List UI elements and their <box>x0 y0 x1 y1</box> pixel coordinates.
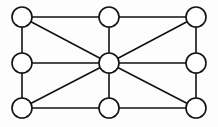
graph-node-top-center <box>99 7 119 27</box>
graph-node-bottom-center <box>99 98 119 118</box>
graph-edge-center-to-bottom-right <box>109 63 196 108</box>
graph-node-mid-right <box>186 53 206 73</box>
graph-node-bottom-left <box>12 98 32 118</box>
graph-node-top-left <box>12 7 32 27</box>
graph-edge-center-to-top-right <box>109 17 196 63</box>
graph-node-top-right <box>186 7 206 27</box>
graph-edge-center-to-top-left <box>22 17 109 63</box>
graph-edge-center-to-bottom-left <box>22 63 109 108</box>
graph-node-center <box>99 53 119 73</box>
graph-canvas <box>0 0 218 127</box>
graph-node-bottom-right <box>186 98 206 118</box>
graph-diagram <box>0 0 218 127</box>
graph-node-mid-left <box>12 53 32 73</box>
